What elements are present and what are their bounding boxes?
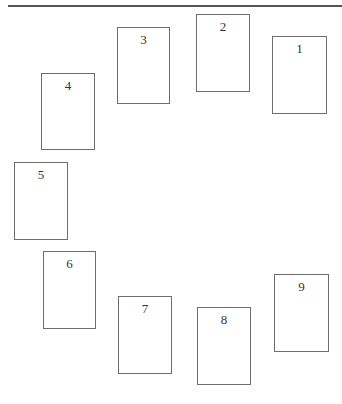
card-position-6: 6 — [43, 251, 96, 329]
card-position-9: 9 — [274, 274, 329, 352]
card-position-2: 2 — [196, 14, 250, 92]
card-position-5: 5 — [14, 162, 68, 240]
card-position-1: 1 — [272, 36, 327, 114]
card-number-label: 7 — [119, 302, 171, 316]
card-number-label: 2 — [197, 20, 249, 34]
card-number-label: 6 — [44, 257, 95, 271]
card-number-label: 5 — [15, 168, 67, 182]
card-number-label: 9 — [275, 280, 328, 294]
top-divider-rule — [8, 5, 342, 7]
card-position-4: 4 — [41, 73, 95, 150]
card-position-7: 7 — [118, 296, 172, 374]
card-number-label: 1 — [273, 42, 326, 56]
card-position-3: 3 — [117, 27, 170, 104]
card-number-label: 4 — [42, 79, 94, 93]
card-number-label: 3 — [118, 33, 169, 47]
card-number-label: 8 — [198, 313, 250, 327]
card-position-8: 8 — [197, 307, 251, 385]
